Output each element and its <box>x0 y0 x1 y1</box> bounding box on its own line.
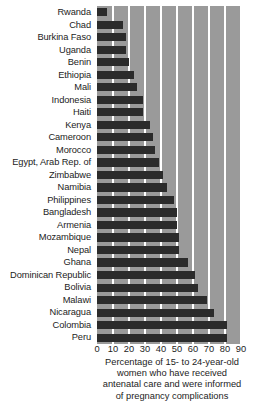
category-label-dominican-republic: Dominican Republic <box>10 269 91 281</box>
x-tick-20: 20 <box>124 344 134 354</box>
bar-benin <box>97 58 129 66</box>
bar-row: Philippines <box>0 194 254 206</box>
x-axis-tick-labels: 0102030405060708090 <box>0 344 254 358</box>
bar-malawi <box>97 296 207 304</box>
bar-colombia <box>97 321 227 329</box>
category-label-chad: Chad <box>69 19 91 31</box>
bar-egypt-arab-rep-of <box>97 158 159 166</box>
category-label-mozambique: Mozambique <box>39 231 91 243</box>
category-label-indonesia: Indonesia <box>52 94 91 106</box>
bar-row: Nepal <box>0 244 254 256</box>
bar-indonesia <box>97 96 143 104</box>
bar-row: Morocco <box>0 144 254 156</box>
bar-cameroon <box>97 133 153 141</box>
caption-line-2: women who have received <box>90 368 254 379</box>
category-label-malawi: Malawi <box>63 294 91 306</box>
category-label-nepal: Nepal <box>67 244 91 256</box>
bar-row: Kenya <box>0 119 254 131</box>
bar-bangladesh <box>97 208 177 216</box>
category-label-peru: Peru <box>72 331 91 343</box>
category-label-burkina-faso: Burkina Faso <box>37 31 91 43</box>
category-label-nicaragua: Nicaragua <box>50 306 91 318</box>
bar-row: Namibia <box>0 181 254 193</box>
bar-row: Chad <box>0 19 254 31</box>
category-label-uganda: Uganda <box>59 44 91 56</box>
category-label-rwanda: Rwanda <box>57 6 91 18</box>
bar-ethiopia <box>97 71 134 79</box>
category-label-zimbabwe: Zimbabwe <box>49 169 91 181</box>
category-label-bangladesh: Bangladesh <box>43 206 91 218</box>
x-tick-70: 70 <box>204 344 214 354</box>
bar-row: Mali <box>0 81 254 93</box>
x-tick-30: 30 <box>140 344 150 354</box>
x-tick-50: 50 <box>172 344 182 354</box>
category-label-morocco: Morocco <box>56 144 91 156</box>
bar-row: Uganda <box>0 44 254 56</box>
caption-line-1: Percentage of 15- to 24-year-old <box>90 357 254 368</box>
bar-mozambique <box>97 233 179 241</box>
x-tick-0: 0 <box>94 344 99 354</box>
bar-row: Dominican Republic <box>0 269 254 281</box>
category-label-colombia: Colombia <box>53 319 91 331</box>
category-label-haiti: Haiti <box>73 106 91 118</box>
category-label-egypt-arab-rep-of: Egypt, Arab Rep. of <box>12 156 91 168</box>
bar-row: Haiti <box>0 106 254 118</box>
bar-row: Cameroon <box>0 131 254 143</box>
bar-ghana <box>97 258 188 266</box>
bar-zimbabwe <box>97 171 163 179</box>
category-label-kenya: Kenya <box>65 119 91 131</box>
category-label-bolivia: Bolivia <box>64 281 91 293</box>
bar-dominican-republic <box>97 271 195 279</box>
bar-row: Malawi <box>0 294 254 306</box>
bar-kenya <box>97 121 150 129</box>
x-tick-60: 60 <box>188 344 198 354</box>
x-axis-caption: Percentage of 15- to 24-year-old women w… <box>90 357 254 401</box>
bar-rows: RwandaChadBurkina FasoUgandaBeninEthiopi… <box>0 6 254 344</box>
bar-row: Colombia <box>0 319 254 331</box>
bar-row: Ghana <box>0 256 254 268</box>
bar-namibia <box>97 183 167 191</box>
bar-row: Rwanda <box>0 6 254 18</box>
category-label-cameroon: Cameroon <box>48 131 91 143</box>
bar-nepal <box>97 246 179 254</box>
bar-row: Nicaragua <box>0 306 254 318</box>
x-tick-80: 80 <box>220 344 230 354</box>
bar-row: Zimbabwe <box>0 169 254 181</box>
bar-armenia <box>97 221 177 229</box>
bar-bolivia <box>97 284 198 292</box>
bar-row: Peru <box>0 331 254 343</box>
bar-row: Indonesia <box>0 94 254 106</box>
x-tick-40: 40 <box>156 344 166 354</box>
bar-row: Ethiopia <box>0 69 254 81</box>
bar-row: Bolivia <box>0 281 254 293</box>
bar-uganda <box>97 46 126 54</box>
caption-line-3: antenatal care and were informed <box>90 379 254 390</box>
bar-row: Mozambique <box>0 231 254 243</box>
horizontal-bar-chart: RwandaChadBurkina FasoUgandaBeninEthiopi… <box>0 0 254 401</box>
x-tick-10: 10 <box>108 344 118 354</box>
category-label-ghana: Ghana <box>64 256 91 268</box>
bar-nicaragua <box>97 309 214 317</box>
category-label-armenia: Armenia <box>57 219 91 231</box>
bar-row: Egypt, Arab Rep. of <box>0 156 254 168</box>
bar-peru <box>97 334 227 342</box>
category-label-ethiopia: Ethiopia <box>58 69 91 81</box>
caption-line-4: of pregnancy complications <box>90 391 254 401</box>
bar-philippines <box>97 196 174 204</box>
bar-row: Benin <box>0 56 254 68</box>
bar-chad <box>97 21 123 29</box>
bar-rwanda <box>97 8 107 16</box>
category-label-namibia: Namibia <box>58 181 91 193</box>
bar-row: Burkina Faso <box>0 31 254 43</box>
category-label-mali: Mali <box>74 81 91 93</box>
bar-row: Bangladesh <box>0 206 254 218</box>
category-label-benin: Benin <box>68 56 91 68</box>
bar-haiti <box>97 108 143 116</box>
bar-burkina-faso <box>97 33 126 41</box>
bar-morocco <box>97 146 155 154</box>
bar-mali <box>97 83 137 91</box>
category-label-philippines: Philippines <box>47 194 91 206</box>
x-tick-90: 90 <box>236 344 246 354</box>
bar-row: Armenia <box>0 219 254 231</box>
